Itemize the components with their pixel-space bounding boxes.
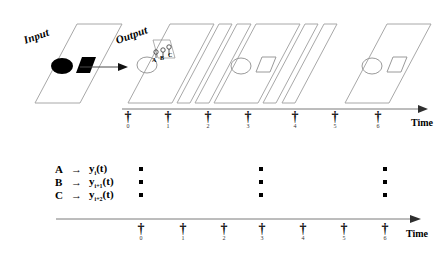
bottom-time-axis-label: Time [406,228,428,239]
top-tick-5-label: 5 [328,123,342,130]
spike-a-t3 [259,167,263,171]
bottom-tick-6: † 6 [378,223,392,242]
bottom-tick-3-label: 3 [255,235,269,242]
top-tick-5: † 5 [328,111,342,130]
bottom-tick-5: † 5 [337,223,351,242]
spike-b-t6 [383,180,387,184]
spike-c-t6 [383,193,387,197]
top-tick-3-label: 3 [241,123,255,130]
spike-c-t0 [139,193,143,197]
dagger-icon: † [296,223,310,234]
bottom-tick-2: † 2 [217,223,231,242]
legend-arrow-icon: → [71,189,82,201]
legend-arrow-icon: → [71,163,82,175]
legend-row-b: B → yi+1(t) [55,176,114,188]
bottom-tick-1: † 1 [176,223,190,242]
legend-fn-b-arg: (t) [103,175,114,187]
legend-row-c: C → yi+2(t) [55,189,114,201]
bottom-tick-6-label: 6 [378,235,392,242]
legend-fn-a-arg: (t) [96,162,107,174]
input-filled-ellipse [51,58,73,74]
dagger-icon: † [134,223,148,234]
bottom-tick-4: † 4 [296,223,310,242]
output-marker-b-label: B [160,55,164,61]
top-tick-0: † 0 [121,111,135,130]
plane-t6 [345,24,431,103]
dagger-icon: † [337,223,351,234]
dagger-icon: † [176,223,190,234]
dagger-icon: † [217,223,231,234]
dagger-icon: † [328,111,342,122]
legend-key-c: C [55,189,67,201]
bottom-tick-3: † 3 [255,223,269,242]
output-marker-c-label: C [168,52,172,58]
dagger-icon: † [288,111,302,122]
dagger-icon: † [255,223,269,234]
top-tick-3: † 3 [241,111,255,130]
top-tick-0-label: 0 [121,123,135,130]
top-tick-1: † 1 [161,111,175,130]
dagger-icon: † [371,111,385,122]
spike-b-t0 [139,180,143,184]
dagger-icon: † [201,111,215,122]
spike-a-t0 [139,167,143,171]
top-tick-2: † 2 [201,111,215,130]
legend-key-a: A [55,163,67,175]
legend-key-b: B [55,176,67,188]
bottom-tick-2-label: 2 [217,235,231,242]
top-tick-2-label: 2 [201,123,215,130]
legend-fn-c-arg: (t) [103,188,114,200]
spike-b-t3 [259,180,263,184]
top-tick-4: † 4 [288,111,302,130]
legend-fn-c-sub: i+2 [95,196,103,202]
top-time-axis-label: Time [411,117,433,128]
top-tick-6-label: 6 [371,123,385,130]
bottom-tick-4-label: 4 [296,235,310,242]
top-tick-1-label: 1 [161,123,175,130]
legend-arrow-icon: → [71,176,82,188]
figure-root: Input Output A B C † 0 † 1 † 2 † 3 † 4 †… [0,0,444,261]
dagger-icon: † [378,223,392,234]
legend-fn-c: yi+2(t) [89,188,114,202]
bottom-tick-5-label: 5 [337,235,351,242]
legend-row-a: A → yi(t) [55,163,107,175]
spike-a-t6 [383,167,387,171]
bottom-tick-0: † 0 [134,223,148,242]
spike-c-t3 [259,193,263,197]
bottom-tick-0-label: 0 [134,235,148,242]
bottom-tick-1-label: 1 [176,235,190,242]
dagger-icon: † [241,111,255,122]
dagger-icon: † [161,111,175,122]
top-tick-6: † 6 [371,111,385,130]
dagger-icon: † [121,111,135,122]
top-tick-4-label: 4 [288,123,302,130]
output-marker-a-label: A [152,57,156,63]
